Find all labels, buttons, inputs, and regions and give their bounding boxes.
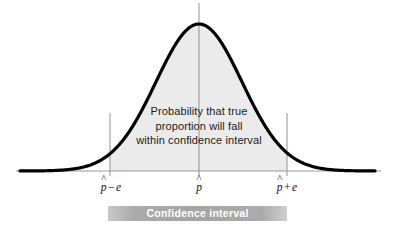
p-hat-symbol-lower: ^p	[101, 181, 107, 193]
p-hat-symbol-upper: ^p	[277, 181, 283, 193]
margin-of-error-term-lower: e	[116, 181, 121, 193]
caption-line-2: proportion will fall	[110, 119, 288, 134]
axis-label-lower-bound: ^p−e	[88, 181, 134, 193]
probability-caption: Probability that true proportion will fa…	[110, 104, 288, 148]
plus-operator: +	[283, 181, 293, 193]
caption-line-3: within confidence interval	[110, 133, 288, 148]
margin-of-error-term-upper: e	[292, 181, 297, 193]
axis-label-upper-bound: ^p+e	[264, 181, 310, 193]
minus-operator: −	[107, 181, 117, 193]
hat-mark-upper: ^	[277, 174, 282, 185]
hat-mark-center: ^	[197, 174, 202, 185]
confidence-interval-bar-label: Confidence interval	[146, 208, 248, 219]
p-hat-symbol-center: ^p	[196, 181, 202, 193]
axis-label-point-estimate: ^p	[186, 181, 212, 193]
axis-lines	[16, 3, 381, 176]
confidence-interval-figure: Probability that true proportion will fa…	[0, 0, 393, 235]
hat-mark-lower: ^	[101, 174, 106, 185]
caption-line-1: Probability that true	[110, 104, 288, 119]
confidence-interval-bar: Confidence interval	[108, 206, 287, 221]
